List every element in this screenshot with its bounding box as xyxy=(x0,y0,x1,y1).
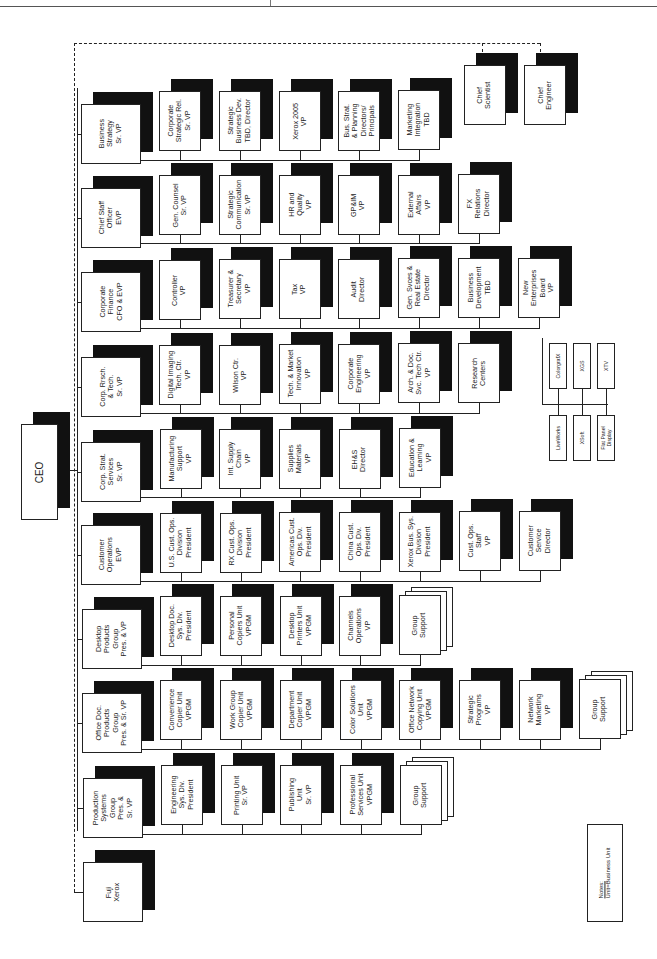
notes-box: Notes: Unit=Business Unit xyxy=(587,824,623,922)
venture-box[interactable]: XGS xyxy=(573,343,591,389)
child-connector xyxy=(301,656,302,666)
group-support-box[interactable]: Group Support xyxy=(579,679,621,739)
child-connector xyxy=(359,319,360,329)
child-box[interactable]: Channels Operations VP xyxy=(339,596,381,656)
child-connector xyxy=(359,235,360,244)
box-label: New Enterprises Board VP xyxy=(522,270,556,306)
child-box[interactable]: Gen. Counsel Sr. VP xyxy=(159,175,201,235)
child-box[interactable]: Business Development TBD xyxy=(458,258,500,318)
child-box[interactable]: Corporate Strategic Rel. Sr. VP xyxy=(159,91,201,151)
child-connector xyxy=(480,740,481,750)
box-label: Americas Cust. Ops. Div. President xyxy=(287,518,312,567)
child-connector xyxy=(300,235,301,244)
child-box[interactable]: Tech. & Market Innovation VP xyxy=(279,344,321,404)
child-box[interactable]: Department Copier Unit VPGM xyxy=(280,680,322,740)
child-box[interactable]: Professional Services Unit VPGM xyxy=(340,765,382,825)
child-box[interactable]: Treasurer & Secretary VP xyxy=(219,259,261,319)
child-box[interactable]: RX Cust. Ops. Division President xyxy=(220,513,262,573)
child-box[interactable]: Tax VP xyxy=(279,259,321,319)
box-label: Xerox 2005 VP xyxy=(292,103,309,140)
child-box[interactable]: Education & Learning VP xyxy=(399,428,441,488)
child-box[interactable]: Office Network Copying Unit VPGM xyxy=(399,680,441,740)
child-connector xyxy=(539,318,540,329)
child-box[interactable]: Work Group Copier Unit VPGM xyxy=(220,680,262,740)
child-box[interactable]: FX Relations Director xyxy=(458,174,500,234)
child-connector xyxy=(419,403,420,414)
child-box[interactable]: Customer Service Director xyxy=(519,511,561,571)
child-box[interactable]: Cust. Ops. Staff VP xyxy=(459,511,501,571)
chief-box-0[interactable]: Chief Scientist xyxy=(464,65,506,125)
child-box[interactable]: Xerox 2005 VP xyxy=(279,91,321,151)
child-box[interactable]: Engineering Sys. Div. President xyxy=(161,765,203,825)
head-box-corp-strat-services[interactable]: Corp. Strat. Services Sr. VP xyxy=(81,442,141,502)
child-box[interactable]: U.S. Cust. Ops. Division President xyxy=(160,513,202,573)
child-box[interactable]: Supplies Materials VP xyxy=(279,429,321,489)
child-box[interactable]: China Cust. Ops. Div. President xyxy=(339,512,381,572)
child-box[interactable]: HR and Quality VP xyxy=(279,175,321,235)
child-box[interactable]: Int. Supply Chain VP xyxy=(219,429,261,489)
child-box[interactable]: Desktop Printers Unit VPGM xyxy=(280,596,322,656)
box-label: Corp. Strat. Services Sr. VP xyxy=(98,454,123,491)
child-box[interactable]: Convenience Copier Unit VPGM xyxy=(160,680,202,740)
child-connector xyxy=(480,571,481,582)
box-label: EH&S Director xyxy=(352,446,369,471)
group-support-box[interactable]: Group Support xyxy=(400,765,442,825)
child-box[interactable]: GP&IM VP xyxy=(338,175,380,235)
venture-connector xyxy=(606,404,607,416)
child-box[interactable]: Color Solutions Unit VPGM xyxy=(340,680,382,740)
child-box[interactable]: Audit Director xyxy=(338,259,380,319)
fuji-xerox-box[interactable]: Fuji Xerox xyxy=(83,862,143,922)
child-box[interactable]: Controller VP xyxy=(159,260,201,320)
venture-box[interactable]: LiveWorks xyxy=(549,415,567,461)
child-box[interactable]: Strategic Communication Sr. VP xyxy=(219,175,261,235)
child-connector xyxy=(182,825,183,835)
box-label: Corporate Strategic Rel. Sr. VP xyxy=(167,99,192,142)
head-box-desktop-products[interactable]: Desktop Products Group Pres. & VP xyxy=(82,609,142,669)
row-corp-research-bus xyxy=(141,413,480,414)
box-label: Engineering Sys. Div. President xyxy=(169,776,194,814)
head-box-chief-staff[interactable]: Chief Staff Officer EVP xyxy=(81,188,141,248)
child-connector xyxy=(600,739,601,750)
child-box[interactable]: Gen. Svces & Real Estate Director xyxy=(398,258,440,318)
child-box[interactable]: Bus. Strat. & Planning Directors/ Princi… xyxy=(338,91,380,151)
child-box[interactable]: Research Centers xyxy=(458,343,500,403)
notes-heading: Notes: xyxy=(598,881,604,898)
head-box-customer-operations[interactable]: Customer Operations EVP xyxy=(81,525,141,585)
child-box[interactable]: Americas Cust. Ops. Div. President xyxy=(279,512,321,572)
child-box[interactable]: Manufacturing Support VP xyxy=(160,429,202,489)
child-box[interactable]: Arch. & Doc. Svc. Tech Ctr. VP xyxy=(398,343,440,403)
head-box-corporate-finance[interactable]: Corporate Finance CFO & EVP xyxy=(81,272,141,332)
child-box[interactable]: Network Marketing VP xyxy=(519,680,561,740)
child-connector xyxy=(540,571,541,582)
venture-box[interactable]: ColorgrafX xyxy=(549,343,567,389)
box-label: Tax VP xyxy=(292,283,309,294)
group-support-box[interactable]: Group Support xyxy=(399,595,441,655)
head-box-production-systems[interactable]: Production Systems Group Pres. & Sr. VP xyxy=(83,778,143,838)
child-box[interactable]: New Enterprises Board VP xyxy=(518,258,560,318)
venture-box[interactable]: Flat Panel Display xyxy=(597,415,615,461)
venture-box[interactable]: XTV xyxy=(597,343,615,389)
box-label: Business Strategy Sr. VP xyxy=(98,119,123,148)
box-label: Audit Director xyxy=(351,276,368,301)
venture-box[interactable]: XSoft xyxy=(573,415,591,461)
child-box[interactable]: Marketing Integration TBD xyxy=(398,90,440,150)
child-box[interactable]: EH&S Director xyxy=(339,429,381,489)
head-box-business-strategy[interactable]: Business Strategy Sr. VP xyxy=(81,104,141,164)
child-box[interactable]: Publishing Unit Sr. VP xyxy=(280,765,322,825)
box-label: Professional Services Unit VPGM xyxy=(348,774,373,816)
child-box[interactable]: Digital Imaging Tech. Ctr. VP xyxy=(159,345,201,405)
child-box[interactable]: Personal Copiers Unit VPGM xyxy=(220,596,262,656)
chief-box-1[interactable]: Chief Engineer xyxy=(524,65,566,125)
child-box[interactable]: Wilson Ctr. VP xyxy=(219,345,261,405)
venture-connector xyxy=(558,404,559,416)
head-box-office-doc-products[interactable]: Office Doc. Products Group Pres. & Sr. V… xyxy=(82,693,142,753)
child-box[interactable]: Desktop Doc. Sys. Div. President xyxy=(160,596,202,656)
child-box[interactable]: Corporate Engineering VP xyxy=(338,344,380,404)
child-box[interactable]: Strategic Business Dev. TBD, Director xyxy=(219,91,261,151)
child-box[interactable]: Xerox Bus. Sys. Division President xyxy=(399,512,441,572)
child-box[interactable]: Printing Unit Sr. VP xyxy=(221,765,263,825)
child-box[interactable]: Strategic Programs VP xyxy=(459,680,501,740)
ceo-box[interactable]: CEO xyxy=(21,424,58,520)
child-box[interactable]: External Affairs VP xyxy=(398,175,440,235)
head-box-corp-research[interactable]: Corp. Rrsch. & Tech. Sr. VP xyxy=(81,357,141,417)
